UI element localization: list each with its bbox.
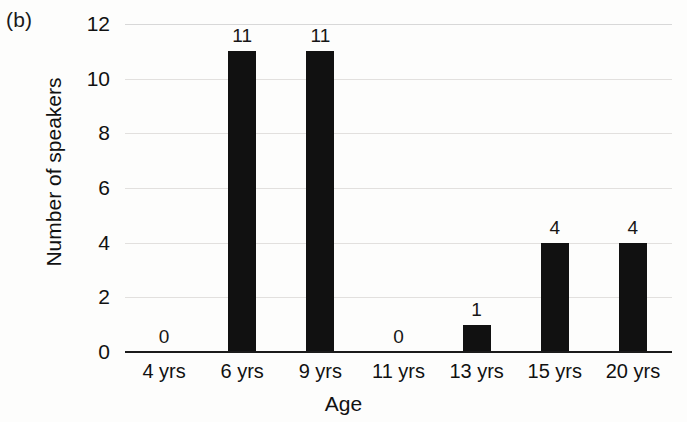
y-tick-label: 2 bbox=[70, 286, 110, 307]
x-axis-line bbox=[125, 351, 672, 353]
bar-value-label: 11 bbox=[310, 26, 330, 45]
panel-label: (b) bbox=[6, 8, 32, 32]
y-axis-title: Number of speakers bbox=[42, 22, 66, 322]
x-tick-label: 20 yrs bbox=[583, 360, 683, 383]
bar-value-label: 1 bbox=[471, 300, 482, 319]
x-axis-title: Age bbox=[0, 392, 687, 416]
y-tick-label: 6 bbox=[70, 177, 110, 198]
bar-slot: 1 bbox=[438, 24, 516, 352]
chart-screenshot: (b) Number of speakers 011110144 0246810… bbox=[0, 0, 687, 422]
bar-slot: 11 bbox=[203, 24, 281, 352]
y-tick-label: 0 bbox=[70, 341, 110, 362]
bar-slot: 11 bbox=[281, 24, 359, 352]
bar-value-label: 11 bbox=[232, 26, 252, 45]
bar-slot: 4 bbox=[516, 24, 594, 352]
bar bbox=[306, 51, 334, 352]
bar-slot: 0 bbox=[359, 24, 437, 352]
bar-value-label: 4 bbox=[628, 218, 639, 237]
bar-value-label: 4 bbox=[549, 218, 560, 237]
bar bbox=[619, 243, 647, 352]
plot-area: 011110144 bbox=[125, 24, 672, 352]
y-tick-label: 10 bbox=[70, 68, 110, 89]
bar-value-label: 0 bbox=[393, 327, 404, 346]
y-tick-label: 4 bbox=[70, 232, 110, 253]
bar bbox=[541, 243, 569, 352]
bar bbox=[463, 325, 491, 352]
bar-value-label: 0 bbox=[159, 327, 170, 346]
y-tick-label: 12 bbox=[70, 13, 110, 34]
bar-slot: 0 bbox=[125, 24, 203, 352]
bar bbox=[228, 51, 256, 352]
bar-slot: 4 bbox=[594, 24, 672, 352]
y-tick-label: 8 bbox=[70, 122, 110, 143]
